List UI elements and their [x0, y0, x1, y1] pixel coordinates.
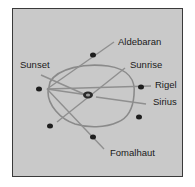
label-rigel: Rigel [155, 80, 177, 90]
sirius-line [96, 97, 146, 104]
label-sirius: Sirius [153, 97, 177, 107]
label-sunset: Sunset [20, 60, 50, 70]
label-sunrise: Sunrise [130, 60, 162, 70]
label-fomalhaut: Fomalhaut [110, 148, 155, 158]
label-aldebaran: Aldebaran [118, 37, 161, 47]
hub-to-center-line [47, 89, 88, 95]
stone-marker-icon [90, 53, 96, 58]
stone-marker-icon [36, 87, 42, 92]
center-cairn-icon [83, 92, 93, 99]
stone-marker-icon [136, 115, 142, 120]
alignment-diagram [0, 0, 195, 187]
stone-marker-icon [47, 124, 53, 129]
stone-marker-icon [138, 85, 144, 90]
stone-marker-icon [90, 135, 96, 140]
fomalhaut-line [47, 89, 104, 149]
